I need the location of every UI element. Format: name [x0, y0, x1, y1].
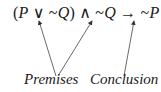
arrow-premises-2 [58, 21, 92, 76]
arrow-premises-1 [39, 21, 56, 76]
conclusion-label: Conclusion [90, 71, 158, 88]
arrow-conclusion [124, 21, 134, 76]
logic-diagram: (P ∨ ~Q) ∧ ~Q → ~P Premises Conclusion [0, 0, 161, 92]
premises-label: Premises [24, 71, 78, 88]
